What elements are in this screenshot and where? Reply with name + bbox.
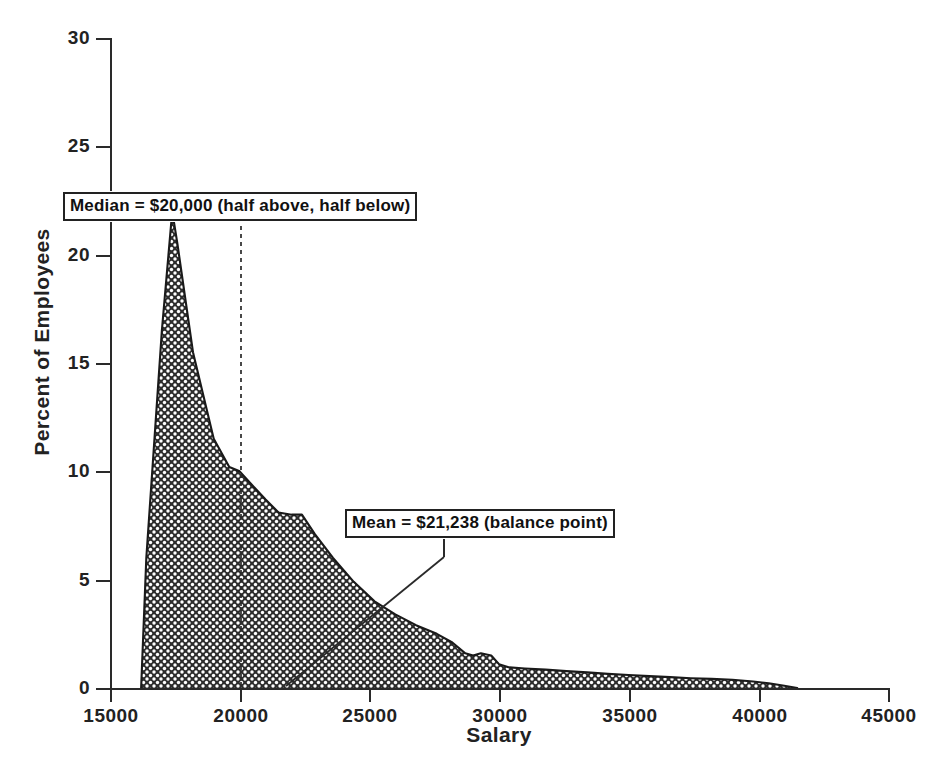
- x-axis-title: Salary: [399, 723, 599, 747]
- y-tick-label-30: 30: [44, 27, 90, 49]
- x-tick-30000: [499, 688, 501, 702]
- x-tick-label-40000: 40000: [705, 705, 815, 727]
- y-tick-label-5: 5: [44, 569, 90, 591]
- x-tick-20000: [240, 688, 242, 702]
- x-tick-45000: [888, 688, 890, 702]
- median-vertical-line: [238, 218, 244, 688]
- x-tick-40000: [759, 688, 761, 702]
- y-axis-title: Percent of Employees: [30, 212, 54, 472]
- y-tick-10: [96, 471, 111, 473]
- y-tick-0: [96, 688, 111, 690]
- x-tick-label-15000: 15000: [56, 705, 166, 727]
- x-tick-label-20000: 20000: [186, 705, 296, 727]
- y-tick-label-25: 25: [44, 135, 90, 157]
- mean-callout: Mean = $21,238 (balance point): [345, 509, 615, 538]
- y-tick-5: [96, 580, 111, 582]
- x-tick-35000: [629, 688, 631, 702]
- chart-figure: 30 25 20 15 10 5 0 15000 20000 25000 300…: [0, 0, 948, 781]
- y-tick-15: [96, 363, 111, 365]
- y-tick-20: [96, 255, 111, 257]
- y-tick-30: [96, 38, 111, 40]
- y-tick-label-0: 0: [44, 677, 90, 699]
- y-tick-25: [96, 146, 111, 148]
- median-callout: Median = $20,000 (half above, half below…: [63, 192, 417, 221]
- x-tick-label-45000: 45000: [834, 705, 944, 727]
- distribution-plot: [0, 0, 948, 781]
- x-tick-15000: [110, 688, 112, 702]
- mean-leader-diagonal: [282, 552, 452, 692]
